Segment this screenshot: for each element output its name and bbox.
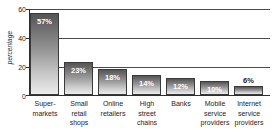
bar-supermarkets[interactable]: 57%: [30, 13, 59, 95]
bar-small-retail-shops[interactable]: 23%: [64, 62, 93, 95]
plot-area: 57% 23% 18% 14% 12%: [29, 9, 270, 96]
category-line-2: street: [127, 109, 167, 119]
y-axis-ticks: 60 40 20 0: [8, 0, 26, 134]
bar-slot-small-retail-shops[interactable]: 23%: [64, 9, 93, 95]
category-line-3: chains: [127, 118, 167, 128]
bar-chart: percentage 60 40 20 0 57% 23%: [0, 0, 272, 134]
y-tick-60: 60: [10, 6, 26, 13]
x-axis-category-labels: Super- markets Small retail shops Online…: [29, 99, 270, 134]
bar-slot-internet-service-providers[interactable]: 6%: [234, 9, 263, 95]
bar-slot-supermarkets[interactable]: 57%: [30, 9, 59, 95]
bar-value-high-street-chains: 14%: [133, 80, 160, 88]
bar-value-mobile-service-providers: 10%: [201, 86, 228, 94]
bar-slot-online-retailers[interactable]: 18%: [98, 9, 127, 95]
y-tick-20: 20: [10, 64, 26, 71]
bar-value-supermarkets: 57%: [31, 18, 58, 26]
y-tick-0: 0: [10, 93, 26, 100]
category-line-3: shops: [59, 118, 99, 128]
bar-internet-service-providers[interactable]: 6%: [234, 86, 263, 95]
bar-online-retailers[interactable]: 18%: [98, 69, 127, 95]
bar-slot-banks[interactable]: 12%: [166, 9, 195, 95]
bar-value-small-retail-shops: 23%: [65, 67, 92, 75]
bar-value-internet-service-providers: 6%: [235, 77, 262, 85]
category-label-internet-service-providers: Internet service providers: [227, 99, 271, 128]
bar-slot-mobile-service-providers[interactable]: 10%: [200, 9, 229, 95]
x-axis-line: [29, 95, 270, 96]
bar-value-banks: 12%: [167, 83, 194, 91]
bar-high-street-chains[interactable]: 14%: [132, 75, 161, 95]
y-tick-40: 40: [10, 35, 26, 42]
bar-slot-high-street-chains[interactable]: 14%: [132, 9, 161, 95]
category-line-1: Internet: [227, 99, 271, 109]
bar-banks[interactable]: 12%: [166, 78, 195, 95]
category-line-2: service: [227, 109, 271, 119]
category-line-3: providers: [227, 118, 271, 128]
bar-value-online-retailers: 18%: [99, 74, 126, 82]
tickmark-0: [26, 95, 30, 96]
bar-mobile-service-providers[interactable]: 10%: [200, 81, 229, 95]
bar-series: 57% 23% 18% 14% 12%: [29, 9, 270, 95]
